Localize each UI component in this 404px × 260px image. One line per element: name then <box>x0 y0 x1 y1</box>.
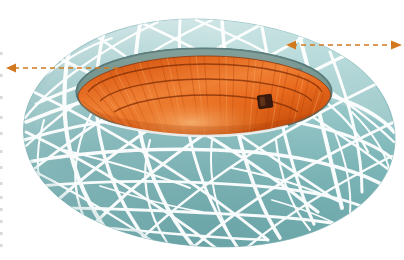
left-arrowhead-icon <box>6 63 16 72</box>
right-arrow-right-head-icon <box>391 40 402 49</box>
stadium-illustration <box>0 0 404 260</box>
scan-edge-marks <box>0 52 3 247</box>
figure-canvas: Oval woven-lattice stadium with open roo… <box>0 0 404 260</box>
scoreboard-screen <box>257 94 273 109</box>
